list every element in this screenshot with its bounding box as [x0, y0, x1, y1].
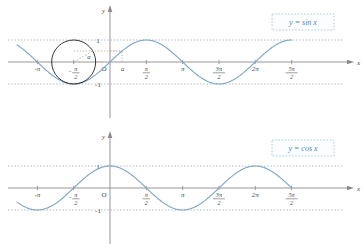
x-tick-sign: − [68, 68, 72, 75]
x-tick-label: π2 [143, 191, 150, 206]
x-tick-numerator: 5π [289, 65, 296, 72]
x-tick-label: π2 [143, 65, 150, 80]
x-tick-label: 2π [252, 191, 260, 199]
x-tick-denominator: 2 [74, 73, 77, 80]
x-tick-denominator: 2 [290, 73, 293, 80]
x-tick-numerator: 5π [289, 191, 296, 198]
origin-label: O [102, 191, 107, 199]
curve-left-stub [17, 202, 37, 210]
y-tick-label-plus1: 1 [96, 37, 100, 45]
trig-graphs-figure: xyO1-1-ππ2−π2π3π22π5π2y = sin xαaxyO1-1-… [0, 0, 364, 251]
y-tick-label-minus1: -1 [95, 81, 101, 89]
x-tick-label: -π [34, 191, 40, 199]
x-tick-label: π [181, 191, 185, 199]
curve-left-stub [17, 45, 37, 62]
x-tick-denominator: 2 [217, 199, 220, 206]
point-a-label: a [121, 65, 124, 72]
x-tick-numerator: 3π [215, 191, 223, 198]
y-axis-arrow [108, 131, 113, 138]
cosine-panel: xyO1-1-ππ2−π2π3π22π5π2y = cos x [8, 131, 361, 244]
x-tick-label: -π [34, 65, 40, 73]
x-axis-label: x [356, 59, 361, 67]
x-tick-denominator: 2 [145, 73, 148, 80]
x-axis-arrow [347, 60, 354, 65]
x-tick-label: π [181, 65, 185, 73]
x-tick-numerator: π [74, 65, 78, 72]
y-axis-label: y [101, 133, 106, 141]
y-axis-label: y [101, 7, 106, 15]
sine-panel: xyO1-1-ππ2−π2π3π22π5π2y = sin xαa [8, 5, 361, 118]
x-tick-label: 5π2 [286, 65, 298, 80]
alpha-angle-label: α [87, 53, 91, 60]
x-tick-numerator: 3π [215, 65, 223, 72]
x-tick-label: π2− [68, 191, 80, 206]
x-axis-arrow [347, 186, 354, 191]
y-tick-label-minus1: -1 [95, 207, 101, 215]
x-tick-label: 3π2 [213, 191, 225, 206]
x-axis-label: x [356, 185, 361, 193]
x-tick-numerator: π [145, 191, 149, 198]
x-tick-label: 3π2 [213, 65, 225, 80]
x-tick-denominator: 2 [217, 73, 220, 80]
x-tick-label: 2π [252, 65, 260, 73]
x-tick-denominator: 2 [145, 199, 148, 206]
y-axis-arrow [108, 5, 113, 12]
x-tick-numerator: π [145, 65, 149, 72]
x-tick-label: π2− [68, 65, 80, 80]
x-tick-denominator: 2 [74, 199, 77, 206]
legend-label: y = cos x [287, 144, 318, 153]
figure-canvas: xyO1-1-ππ2−π2π3π22π5π2y = sin xαaxyO1-1-… [0, 0, 364, 251]
x-tick-denominator: 2 [290, 199, 293, 206]
x-tick-sign: − [68, 194, 72, 201]
x-tick-numerator: π [74, 191, 78, 198]
legend-label: y = sin x [288, 18, 317, 27]
x-tick-label: 5π2 [286, 191, 298, 206]
